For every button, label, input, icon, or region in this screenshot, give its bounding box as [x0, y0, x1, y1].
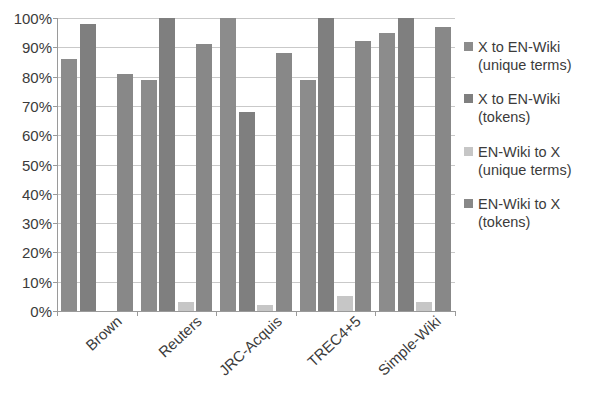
x-axis-labels: BrownReutersJRC-AcquisTREC4+5Simple-Wiki [57, 313, 455, 405]
y-axis-tick-label: 80% [4, 69, 52, 84]
legend-label: EN-Wiki to X(tokens) [478, 195, 560, 231]
bar [117, 74, 133, 311]
legend-label-line2: (unique terms) [478, 161, 571, 179]
plot-area [57, 18, 455, 311]
x-axis-tick-label: JRC-Acquis [216, 313, 284, 378]
gridline [57, 311, 455, 312]
bar [435, 27, 451, 311]
x-tick-mark [455, 311, 456, 316]
bar-group [57, 18, 137, 311]
bar [355, 41, 371, 311]
x-axis-tick-label: TREC4+5 [305, 313, 364, 369]
y-axis-tick-label: 60% [4, 128, 52, 143]
legend-label-line1: EN-Wiki to X [478, 143, 571, 161]
bar-group [137, 18, 217, 311]
legend-label: X to EN-Wiki(unique terms) [478, 38, 571, 74]
bar [398, 18, 414, 311]
y-axis-line [57, 18, 58, 311]
bar [276, 53, 292, 311]
bar [159, 18, 175, 311]
x-axis-tick-label: Reuters [155, 313, 204, 360]
y-axis-labels: 100%90%80%70%60%50%40%30%20%10%0% [0, 18, 52, 311]
legend-label-line1: X to EN-Wiki [478, 90, 560, 108]
bar [257, 305, 273, 311]
bar [239, 112, 255, 311]
legend-swatch-icon [464, 42, 473, 51]
bar [318, 18, 334, 311]
bar-chart: 100%90%80%70%60%50%40%30%20%10%0% BrownR… [0, 0, 614, 405]
bar [196, 44, 212, 311]
y-axis-tick-label: 50% [4, 157, 52, 172]
bar [300, 80, 316, 311]
bar [141, 80, 157, 311]
y-axis-tick-label: 10% [4, 274, 52, 289]
y-axis-tick-label: 100% [4, 11, 52, 26]
legend-label-line1: X to EN-Wiki [478, 38, 571, 56]
y-axis-tick-label: 70% [4, 98, 52, 113]
legend-item[interactable]: X to EN-Wiki(unique terms) [464, 38, 614, 74]
chart-legend: X to EN-Wiki(unique terms)X to EN-Wiki(t… [464, 38, 614, 247]
bar [80, 24, 96, 311]
x-axis-tick-label: Simple-Wiki [375, 313, 443, 378]
legend-label: EN-Wiki to X(unique terms) [478, 143, 571, 179]
legend-label-line2: (unique terms) [478, 56, 571, 74]
bar [416, 302, 432, 311]
x-axis-tick-label: Brown [83, 313, 124, 353]
y-axis-tick-label: 0% [4, 304, 52, 319]
bar [379, 33, 395, 311]
bar [61, 59, 77, 311]
bar-group [296, 18, 376, 311]
legend-swatch-icon [464, 147, 473, 156]
legend-item[interactable]: EN-Wiki to X(tokens) [464, 195, 614, 231]
bar-group [216, 18, 296, 311]
bar-group [375, 18, 455, 311]
bar [220, 18, 236, 311]
legend-swatch-icon [464, 199, 473, 208]
y-axis-tick-label: 40% [4, 186, 52, 201]
legend-label-line2: (tokens) [478, 108, 560, 126]
legend-item[interactable]: EN-Wiki to X(unique terms) [464, 143, 614, 179]
legend-label: X to EN-Wiki(tokens) [478, 90, 560, 126]
legend-swatch-icon [464, 94, 473, 103]
y-axis-tick-label: 30% [4, 216, 52, 231]
y-axis-tick-label: 20% [4, 245, 52, 260]
bar [337, 296, 353, 311]
y-axis-tick-label: 90% [4, 40, 52, 55]
legend-label-line1: EN-Wiki to X [478, 195, 560, 213]
legend-item[interactable]: X to EN-Wiki(tokens) [464, 90, 614, 126]
bar [178, 302, 194, 311]
legend-label-line2: (tokens) [478, 213, 560, 231]
